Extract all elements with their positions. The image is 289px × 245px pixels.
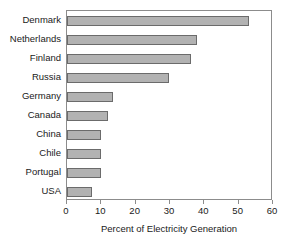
axis-tick-label: 10	[85, 205, 115, 217]
category-label: China	[0, 129, 61, 139]
value-axis-title: Percent of Electricity Generation	[66, 223, 272, 235]
category-label: Portugal	[0, 167, 61, 177]
category-label: Finland	[0, 53, 61, 63]
axis-tick-label: 0	[51, 205, 81, 217]
bar-chart: DenmarkNetherlandsFinlandRussiaGermanyCa…	[0, 0, 289, 245]
category-axis-labels: DenmarkNetherlandsFinlandRussiaGermanyCa…	[0, 10, 64, 200]
axis-tick	[100, 200, 101, 204]
bar	[67, 168, 101, 178]
category-label: Denmark	[0, 15, 61, 25]
axis-tick	[66, 200, 67, 204]
bar	[67, 73, 169, 83]
bar	[67, 92, 113, 102]
axis-tick	[272, 200, 273, 204]
axis-tick-label: 60	[257, 205, 287, 217]
category-label: Chile	[0, 148, 61, 158]
axis-tick-label: 30	[154, 205, 184, 217]
bar	[67, 16, 249, 26]
axis-tick-label: 50	[223, 205, 253, 217]
bar	[67, 130, 101, 140]
axis-tick-label: 20	[120, 205, 150, 217]
bar-series	[67, 11, 271, 199]
value-axis-tick-labels: 0102030405060	[66, 205, 272, 219]
category-label: USA	[0, 186, 61, 196]
bar	[67, 35, 197, 45]
axis-tick	[238, 200, 239, 204]
category-label: Germany	[0, 91, 61, 101]
category-label: Netherlands	[0, 34, 61, 44]
axis-tick	[203, 200, 204, 204]
axis-tick-label: 40	[188, 205, 218, 217]
category-label: Canada	[0, 110, 61, 120]
bar	[67, 54, 191, 64]
bar	[67, 187, 92, 197]
category-label: Russia	[0, 72, 61, 82]
bar	[67, 149, 101, 159]
plot-area	[66, 10, 272, 200]
bar	[67, 111, 108, 121]
axis-tick	[135, 200, 136, 204]
axis-tick	[169, 200, 170, 204]
